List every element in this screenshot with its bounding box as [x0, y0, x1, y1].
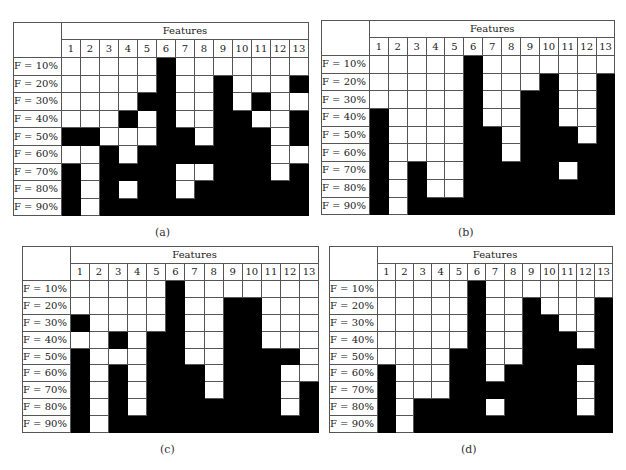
- selected-cell: [223, 331, 242, 348]
- feature-column-header: 8: [204, 264, 223, 281]
- selected-cell: [147, 382, 166, 399]
- unselected-cell: [450, 314, 468, 331]
- selected-cell: [175, 128, 194, 146]
- unselected-cell: [70, 331, 89, 348]
- selected-cell: [156, 93, 175, 111]
- table-row: F = 20%: [23, 297, 319, 314]
- unselected-cell: [445, 179, 464, 197]
- unselected-cell: [80, 145, 99, 163]
- unselected-cell: [185, 348, 204, 365]
- selected-cell: [558, 399, 576, 416]
- unselected-cell: [426, 179, 445, 197]
- selected-cell: [486, 382, 504, 399]
- feature-column-header: 10: [539, 38, 558, 56]
- selected-cell: [147, 365, 166, 382]
- unselected-cell: [137, 75, 156, 93]
- unselected-cell: [539, 56, 558, 74]
- selected-cell: [128, 416, 147, 433]
- selected-cell: [185, 382, 204, 399]
- unselected-cell: [175, 181, 194, 199]
- selected-cell: [70, 399, 89, 416]
- selected-cell: [223, 382, 242, 399]
- unselected-cell: [486, 314, 504, 331]
- selected-cell: [426, 197, 445, 215]
- unselected-cell: [223, 281, 242, 298]
- selected-cell: [539, 179, 558, 197]
- unselected-cell: [504, 297, 522, 314]
- selected-cell: [450, 365, 468, 382]
- unselected-cell: [396, 382, 414, 399]
- unselected-cell: [300, 348, 319, 365]
- selected-cell: [377, 365, 395, 382]
- unselected-cell: [90, 382, 109, 399]
- unselected-cell: [185, 297, 204, 314]
- selected-cell: [576, 348, 594, 365]
- selected-cell: [289, 198, 308, 216]
- unselected-cell: [137, 110, 156, 128]
- selected-cell: [414, 399, 432, 416]
- panel-c: Features12345678910111213F = 10%F = 20%F…: [22, 246, 319, 433]
- feature-column-header: 5: [147, 264, 166, 281]
- unselected-cell: [522, 281, 540, 298]
- unselected-cell: [450, 331, 468, 348]
- features-header: Features: [377, 247, 612, 264]
- table-row: F = 10%: [23, 281, 319, 298]
- selected-cell: [596, 179, 615, 197]
- selected-cell: [596, 91, 615, 109]
- unselected-cell: [502, 144, 521, 162]
- feature-selection-grid: Features12345678910111213F = 10%F = 20%F…: [329, 246, 613, 433]
- selected-cell: [251, 128, 270, 146]
- selected-cell: [540, 365, 558, 382]
- selected-cell: [502, 179, 521, 197]
- unselected-cell: [483, 91, 502, 109]
- unselected-cell: [426, 56, 445, 74]
- selected-cell: [468, 297, 486, 314]
- panel-d: Features12345678910111213F = 10%F = 20%F…: [329, 246, 613, 433]
- row-label: F = 80%: [330, 399, 378, 416]
- selected-cell: [595, 365, 613, 382]
- selected-cell: [166, 331, 185, 348]
- selected-cell: [540, 399, 558, 416]
- unselected-cell: [61, 75, 80, 93]
- selected-cell: [61, 198, 80, 216]
- selected-cell: [99, 145, 118, 163]
- selected-cell: [166, 416, 185, 433]
- selected-cell: [595, 297, 613, 314]
- unselected-cell: [109, 297, 128, 314]
- unselected-cell: [596, 56, 615, 74]
- selected-cell: [502, 197, 521, 215]
- panel-caption: (a): [155, 226, 170, 239]
- row-label: F = 90%: [23, 416, 71, 433]
- unselected-cell: [414, 382, 432, 399]
- selected-cell: [504, 399, 522, 416]
- row-label: F = 60%: [14, 145, 62, 163]
- selected-cell: [504, 416, 522, 433]
- selected-cell: [223, 314, 242, 331]
- selected-cell: [109, 331, 128, 348]
- selected-cell: [232, 163, 251, 181]
- selected-cell: [270, 181, 289, 199]
- unselected-cell: [204, 331, 223, 348]
- unselected-cell: [289, 145, 308, 163]
- selected-cell: [522, 399, 540, 416]
- selected-cell: [156, 163, 175, 181]
- selected-cell: [156, 110, 175, 128]
- table-row: F = 40%: [23, 331, 319, 348]
- unselected-cell: [90, 314, 109, 331]
- unselected-cell: [432, 297, 450, 314]
- unselected-cell: [426, 73, 445, 91]
- selected-cell: [558, 382, 576, 399]
- unselected-cell: [270, 58, 289, 76]
- unselected-cell: [388, 144, 407, 162]
- selected-cell: [166, 399, 185, 416]
- unselected-cell: [70, 281, 89, 298]
- selected-cell: [577, 197, 596, 215]
- selected-cell: [242, 348, 261, 365]
- selected-cell: [289, 110, 308, 128]
- unselected-cell: [99, 128, 118, 146]
- row-label: F = 30%: [23, 314, 71, 331]
- selected-cell: [450, 348, 468, 365]
- row-label: F = 70%: [330, 382, 378, 399]
- unselected-cell: [300, 365, 319, 382]
- unselected-cell: [204, 281, 223, 298]
